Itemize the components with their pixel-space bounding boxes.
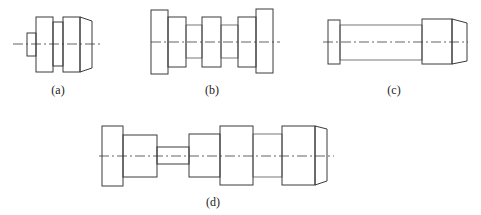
shaft-b-neck-2 — [221, 25, 238, 58]
subfigure-label-b: (b) — [205, 83, 219, 98]
shaft-d-block-3 — [282, 126, 315, 185]
shaft-d-shoulder — [220, 126, 253, 185]
shaft-c-chamfer — [452, 19, 467, 64]
shaft-a-shoulder-1 — [36, 17, 53, 72]
shaft-d — [99, 126, 334, 186]
shaft-c — [323, 19, 468, 64]
shaft-b — [151, 9, 280, 74]
shaft-a-chamfer — [80, 17, 92, 72]
shaft-a — [13, 17, 102, 72]
shaft-d-thin-neck — [157, 147, 189, 164]
shaft-b-flange-right — [256, 9, 273, 73]
shaft-c-long-shaft — [340, 25, 422, 60]
shaft-c-block — [422, 19, 452, 64]
shaft-a-shoulder-2 — [63, 17, 80, 72]
subfigure-label-d: (d) — [206, 195, 220, 210]
subfigure-label-c: (c) — [387, 83, 400, 98]
shaft-d-neck-2 — [253, 134, 282, 177]
shaft-a-small-end — [27, 33, 36, 56]
subfigure-label-a: (a) — [51, 83, 64, 98]
shaft-b-neck-1 — [186, 25, 202, 58]
shaft-d-block-2 — [189, 134, 220, 177]
shaft-diagrams — [0, 0, 481, 215]
shaft-d-chamfer — [315, 126, 327, 185]
